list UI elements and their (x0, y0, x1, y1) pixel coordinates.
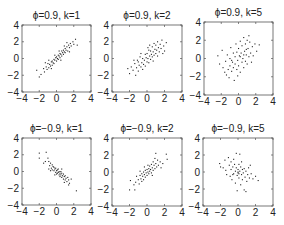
scatter-point (138, 71, 139, 72)
y-tick-label: −4 (8, 200, 20, 211)
scatter-point (248, 56, 249, 57)
scatter-point (67, 50, 68, 51)
scatter-point (243, 37, 244, 38)
scatter-point (140, 66, 141, 67)
x-tick-label: −2 (124, 207, 136, 218)
scatter-point (156, 166, 157, 167)
x-tick-label: 4 (179, 93, 185, 104)
scatter-point (249, 42, 250, 43)
scatter-point (153, 51, 154, 52)
scatter-point (60, 60, 61, 61)
scatter-point (56, 61, 57, 62)
y-tick-label: −4 (190, 90, 202, 101)
scatter-point (233, 159, 234, 160)
scatter-point (217, 55, 218, 56)
scatter-point (256, 51, 257, 52)
scatter-point (245, 177, 246, 178)
scatter-point (244, 51, 245, 52)
scatter-point (157, 160, 158, 161)
scatter-point (54, 55, 55, 56)
scatter-point (258, 180, 259, 181)
scatter-point (45, 161, 46, 162)
scatter-point (241, 53, 242, 54)
scatter-point (154, 55, 155, 56)
scatter-point (146, 172, 147, 173)
scatter-point (154, 168, 155, 169)
scatter-point (241, 174, 242, 175)
x-tick-label: 4 (88, 93, 94, 104)
scatter-figure: ϕ=0.9, k=1 −4−2024−4−2024 ϕ=0.9, k=2 −4−… (0, 0, 284, 225)
y-tick-label: 0 (13, 166, 19, 177)
scatter-point (154, 43, 155, 44)
scatter-point (137, 60, 138, 61)
y-tick-label: 4 (195, 17, 201, 28)
y-tick-label: 4 (194, 133, 200, 144)
scatter-point (253, 55, 254, 56)
x-tick-label: 2 (162, 93, 168, 104)
scatter-point (246, 181, 247, 182)
scatter-point (65, 50, 66, 51)
x-tick-label: −2 (34, 206, 46, 217)
x-tick-label: 2 (71, 93, 77, 104)
scatter-point (127, 68, 128, 69)
scatter-point (242, 169, 243, 170)
scatter-point (245, 43, 246, 44)
scatter-point (70, 43, 71, 44)
x-tick-label: 4 (179, 207, 185, 218)
scatter-point (238, 65, 239, 66)
scatter-point (234, 80, 235, 81)
scatter-point (239, 154, 240, 155)
scatter-point (149, 45, 150, 46)
scatter-point (224, 72, 225, 73)
scatter-point (43, 163, 44, 164)
panel-phi-neg0.9-k5: ϕ=−0.9, k=5 −4−2024−4−2024 (189, 123, 277, 218)
scatter-point (49, 64, 50, 65)
x-tick-label: 2 (253, 96, 259, 107)
scatter-point (52, 65, 53, 66)
scatter-point (147, 47, 148, 48)
scatter-point (241, 62, 242, 63)
scatter-point (133, 60, 134, 61)
scatter-point (146, 57, 147, 58)
y-tick-label: −4 (98, 87, 110, 98)
scatter-point (161, 48, 162, 49)
panel-title: ϕ=0.9, k=2 (123, 10, 171, 21)
scatter-point (60, 54, 61, 55)
scatter-point (150, 50, 151, 51)
scatter-point (237, 75, 238, 76)
x-tick-label: 2 (71, 206, 77, 217)
scatter-point (237, 175, 238, 176)
scatter-point (226, 174, 227, 175)
scatter-point (51, 68, 52, 69)
scatter-point (144, 174, 145, 175)
scatter-point (240, 72, 241, 73)
scatter-point (244, 168, 245, 169)
scatter-point (241, 45, 242, 46)
scatter-point (166, 42, 167, 43)
y-tick-label: −4 (98, 201, 110, 212)
scatter-point (151, 164, 152, 165)
scatter-point (237, 60, 238, 61)
scatter-point (139, 183, 140, 184)
axes-frame (112, 25, 182, 92)
scatter-point (47, 69, 48, 70)
scatter-point (149, 55, 150, 56)
scatter-point (240, 166, 241, 167)
y-tick-label: 4 (13, 20, 19, 31)
scatter-point (247, 174, 248, 175)
scatter-point (154, 49, 155, 50)
scatter-point (250, 53, 251, 54)
scatter-point (255, 176, 256, 177)
scatter-point (252, 178, 253, 179)
scatter-point (150, 169, 151, 170)
scatter-point (157, 55, 158, 56)
scatter-point (219, 163, 220, 164)
scatter-point (238, 164, 239, 165)
scatter-point (59, 173, 60, 174)
scatter-point (61, 55, 62, 56)
scatter-point (71, 179, 72, 180)
scatter-point (60, 174, 61, 175)
scatter-point (162, 53, 163, 54)
scatter-point (141, 181, 142, 182)
scatter-point (147, 58, 148, 59)
